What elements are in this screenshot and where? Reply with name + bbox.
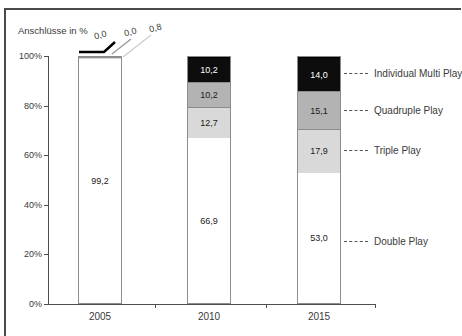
segment-value-label: 66,9 bbox=[188, 216, 230, 226]
bar-segment-quad-2010: 10,2 bbox=[188, 82, 230, 107]
y-tick-label-40: 40% bbox=[10, 200, 42, 210]
dashed-leader-line bbox=[344, 73, 368, 74]
segment-value-label: 15,1 bbox=[298, 106, 340, 116]
y-tick-mark bbox=[44, 56, 48, 57]
frame-left-rule bbox=[4, 8, 6, 336]
bar-segment-multi-2015: 14,0 bbox=[298, 57, 340, 91]
segment-value-label: 10,2 bbox=[188, 65, 230, 75]
leader-line-multi bbox=[79, 42, 115, 52]
legend-row-double-play: Double Play bbox=[344, 235, 428, 247]
segment-value-label: 99,2 bbox=[79, 176, 121, 186]
y-tick-mark bbox=[44, 106, 48, 107]
legend-label: Individual Multi Play bbox=[374, 68, 462, 79]
y-tick-label-100: 100% bbox=[10, 51, 42, 61]
frame-top-rule bbox=[6, 8, 461, 10]
stacked-bar-2010: 66,912,710,210,2 bbox=[187, 56, 231, 304]
x-tick-mark bbox=[375, 304, 376, 308]
callout-label-quad-2005: 0,0 bbox=[123, 26, 138, 39]
x-category-label-2015: 2015 bbox=[297, 311, 341, 322]
bar-segment-double-2005: 99,2 bbox=[79, 59, 121, 303]
x-category-label-2010: 2010 bbox=[187, 311, 231, 322]
y-tick-label-80: 80% bbox=[10, 101, 42, 111]
dashed-leader-line bbox=[344, 110, 368, 111]
legend-label: Triple Play bbox=[374, 145, 421, 156]
segment-value-label: 53,0 bbox=[298, 233, 340, 243]
callout-label-multi-2005: 0,0 bbox=[93, 29, 108, 42]
y-tick-label-20: 20% bbox=[10, 249, 42, 259]
y-axis-line bbox=[48, 56, 49, 304]
x-axis-line bbox=[44, 304, 376, 305]
y-tick-mark bbox=[44, 254, 48, 255]
stacked-bar-2005: 99,2 bbox=[78, 56, 122, 304]
y-tick-mark bbox=[44, 155, 48, 156]
y-tick-label-0: 0% bbox=[10, 299, 42, 309]
legend-label: Double Play bbox=[374, 236, 428, 247]
segment-value-label: 12,7 bbox=[188, 118, 230, 128]
legend-row-quadruple-play: Quadruple Play bbox=[344, 104, 443, 116]
dashed-leader-line bbox=[344, 150, 368, 151]
y-tick-label-60: 60% bbox=[10, 150, 42, 160]
bar-segment-double-2015: 53,0 bbox=[298, 173, 340, 303]
legend-row-triple-play: Triple Play bbox=[344, 144, 421, 156]
leader-line-triple bbox=[123, 35, 151, 57]
bar-segment-triple-2005 bbox=[79, 57, 121, 59]
y-tick-mark bbox=[44, 205, 48, 206]
legend-row-individual-multi-play: Individual Multi Play bbox=[344, 67, 462, 79]
bar-segment-triple-2015: 17,9 bbox=[298, 129, 340, 173]
callout-label-triple-2005: 0,8 bbox=[148, 22, 163, 35]
bar-segment-double-2010: 66,9 bbox=[188, 138, 230, 303]
x-tick-mark bbox=[266, 304, 267, 308]
x-tick-mark bbox=[155, 304, 156, 308]
dashed-leader-line bbox=[344, 241, 368, 242]
chart-title: Anschlüsse in % bbox=[18, 25, 88, 36]
bar-segment-multi-2010: 10,2 bbox=[188, 57, 230, 82]
segment-value-label: 14,0 bbox=[298, 70, 340, 80]
bar-segment-triple-2010: 12,7 bbox=[188, 107, 230, 138]
x-category-label-2005: 2005 bbox=[78, 311, 122, 322]
legend-label: Quadruple Play bbox=[374, 105, 443, 116]
stacked-bar-2015: 53,017,915,114,0 bbox=[297, 56, 341, 304]
bar-segment-quad-2015: 15,1 bbox=[298, 91, 340, 128]
segment-value-label: 17,9 bbox=[298, 146, 340, 156]
leader-line-quad bbox=[112, 39, 131, 54]
segment-value-label: 10,2 bbox=[188, 90, 230, 100]
